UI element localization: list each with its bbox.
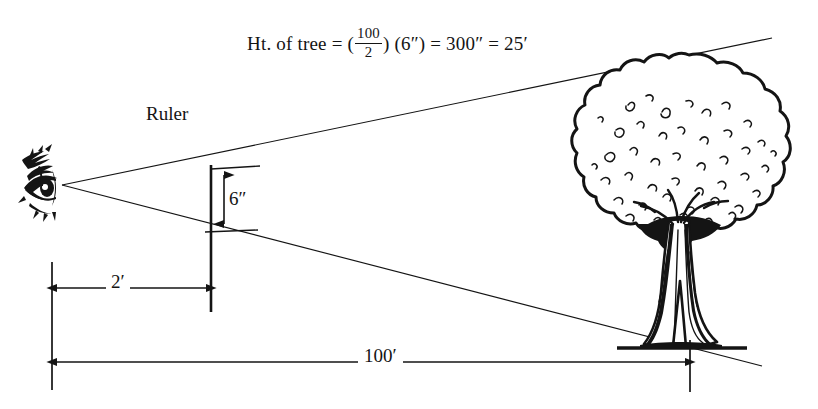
tree-canopy xyxy=(572,53,791,233)
six-inch-label: 6″ xyxy=(229,189,246,208)
formula-prefix: Ht. of tree = ( xyxy=(247,33,354,54)
tree-height-diagram: Ht. of tree = (1002) (6″) = 300″ = 25′ R… xyxy=(0,0,818,409)
ruler-label: Ruler xyxy=(146,104,188,123)
eye-icon xyxy=(18,144,57,222)
fraction-denominator: 2 xyxy=(355,44,382,61)
six-inch-top-tick xyxy=(211,166,260,169)
fraction-numerator: 100 xyxy=(355,26,382,44)
tree-illustration xyxy=(572,53,791,348)
formula-annotation: Ht. of tree = (1002) (6″) = 300″ = 25′ xyxy=(247,26,528,60)
six-inch-bottom-tick xyxy=(205,230,258,232)
hundred-feet-label: 100′ xyxy=(358,346,403,365)
diagram-canvas xyxy=(0,0,818,409)
formula-suffix: ) (6″) = 300″ = 25′ xyxy=(383,33,528,54)
two-feet-label: 2′ xyxy=(106,272,130,291)
scale-fraction: 1002 xyxy=(355,26,382,60)
